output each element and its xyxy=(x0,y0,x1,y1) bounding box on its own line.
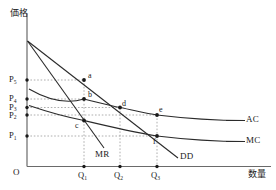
data-point-a-marker xyxy=(82,78,86,82)
y-tick-dot-p4 xyxy=(25,97,28,100)
y-tick-label-p1: P1 xyxy=(9,131,17,140)
y-axis-title: 価格 xyxy=(10,8,21,18)
y-tick-dot-p5 xyxy=(25,78,28,81)
x-tick-dot-q1 xyxy=(82,165,85,168)
x-tick-dot-q3 xyxy=(155,165,158,168)
y-tick-p2-sub: 2 xyxy=(14,114,17,120)
data-point-c-marker xyxy=(82,119,86,123)
y-tick-p1-sub: 1 xyxy=(14,135,17,141)
curve-label-dd: DD xyxy=(180,152,194,161)
economics-diagram-figure: 価格 数量 O P5 P4 P3 P2 P1 Q1 Q2 Q3 a b c d … xyxy=(0,0,276,190)
origin-label: O xyxy=(13,168,20,177)
data-point-label-d: d xyxy=(122,100,126,108)
data-point-b-marker xyxy=(82,97,86,101)
curve-label-mr: MR xyxy=(95,150,110,159)
y-tick-dot-p1 xyxy=(25,134,28,137)
x-tick-dot-q2 xyxy=(118,165,121,168)
x-tick-label-q3: Q3 xyxy=(151,171,160,180)
data-point-label-a: a xyxy=(88,72,92,80)
y-tick-label-p5: P5 xyxy=(9,75,17,84)
data-point-label-c: c xyxy=(75,122,79,130)
chart-plot-area xyxy=(0,0,276,190)
data-point-label-b: b xyxy=(88,91,92,99)
y-tick-p5-sub: 5 xyxy=(14,79,17,85)
y-tick-dot-p2 xyxy=(25,113,28,116)
x-tick-label-q1: Q1 xyxy=(78,171,87,180)
x-tick-label-q2: Q2 xyxy=(114,171,123,180)
data-point-label-e: e xyxy=(159,106,163,114)
curve-label-mc: MC xyxy=(246,136,261,145)
curve-label-ac: AC xyxy=(246,115,259,124)
x-tick-q2-sub: 2 xyxy=(120,175,123,181)
x-axis-title: 数量 xyxy=(248,170,266,179)
data-point-label-f: f xyxy=(153,138,156,146)
x-tick-q3-sub: 3 xyxy=(157,175,160,181)
y-tick-dot-p3 xyxy=(25,106,28,109)
y-tick-label-p2: P2 xyxy=(9,111,17,120)
x-tick-q1-sub: 1 xyxy=(84,175,87,181)
